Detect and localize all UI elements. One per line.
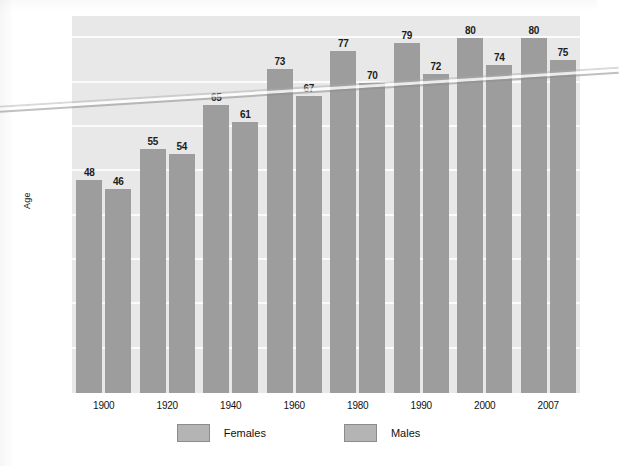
bar-value-label: 48 xyxy=(84,167,95,178)
bar-females-1920[interactable]: 55 xyxy=(140,149,166,393)
x-axis-tick-label-1960: 1960 xyxy=(264,400,324,411)
bar-value-label: 65 xyxy=(211,92,222,103)
x-axis-tick-label-1980: 1980 xyxy=(328,400,388,411)
bar-value-label: 54 xyxy=(176,141,187,152)
bar-group: 8075 xyxy=(521,16,576,393)
plot-area: 48465554656173677770797280748075 xyxy=(72,16,580,393)
bar-males-1990[interactable]: 72 xyxy=(423,74,449,393)
bar-females-1960[interactable]: 73 xyxy=(267,69,293,393)
bar-value-label: 72 xyxy=(430,61,441,72)
bar-males-1980[interactable]: 70 xyxy=(359,83,385,393)
y-axis-title: Age xyxy=(22,192,32,209)
bar-females-1940[interactable]: 65 xyxy=(203,105,229,393)
bar-value-label: 80 xyxy=(465,25,476,36)
x-axis-tick-label-1900: 1900 xyxy=(74,400,134,411)
bars-layer: 48465554656173677770797280748075 xyxy=(72,16,580,393)
bar-males-2000[interactable]: 74 xyxy=(486,65,512,393)
x-axis-tick-label-2007: 2007 xyxy=(518,400,578,411)
x-axis-tick-label-1990: 1990 xyxy=(391,400,451,411)
bar-group: 7367 xyxy=(267,16,322,393)
x-axis-tick-label-1940: 1940 xyxy=(201,400,261,411)
chart-legend: FemalesMales xyxy=(0,424,597,442)
bar-value-label: 77 xyxy=(338,38,349,49)
bar-females-1900[interactable]: 48 xyxy=(76,180,102,393)
x-axis-tick-label-2000: 2000 xyxy=(455,400,515,411)
bar-value-label: 79 xyxy=(401,30,412,41)
legend-item-males[interactable]: Males xyxy=(344,424,420,442)
legend-label: Females xyxy=(224,427,266,439)
bar-value-label: 46 xyxy=(113,176,124,187)
bar-group: 4846 xyxy=(76,16,131,393)
bar-females-1980[interactable]: 77 xyxy=(330,51,356,393)
bar-value-label: 75 xyxy=(557,47,568,58)
bar-value-label: 74 xyxy=(494,52,505,63)
bar-value-label: 70 xyxy=(367,70,378,81)
bar-males-2007[interactable]: 75 xyxy=(550,60,576,393)
bar-males-1920[interactable]: 54 xyxy=(169,154,195,394)
bar-value-label: 73 xyxy=(274,56,285,67)
bar-females-1990[interactable]: 79 xyxy=(394,43,420,393)
bar-value-label: 55 xyxy=(147,136,158,147)
bar-value-label: 67 xyxy=(303,83,314,94)
bar-males-1900[interactable]: 46 xyxy=(105,189,131,393)
bar-females-2000[interactable]: 80 xyxy=(457,38,483,393)
bar-group: 7770 xyxy=(330,16,385,393)
bar-females-2007[interactable]: 80 xyxy=(521,38,547,393)
bar-group: 7972 xyxy=(394,16,449,393)
x-axis-tick-label-1920: 1920 xyxy=(137,400,197,411)
bar-value-label: 80 xyxy=(528,25,539,36)
legend-label: Males xyxy=(391,427,420,439)
legend-swatch-males xyxy=(344,424,377,442)
bar-males-1940[interactable]: 61 xyxy=(232,122,258,393)
bar-value-label: 61 xyxy=(240,109,251,120)
bar-males-1960[interactable]: 67 xyxy=(296,96,322,393)
bar-group: 6561 xyxy=(203,16,258,393)
bar-group: 5554 xyxy=(140,16,195,393)
legend-item-females[interactable]: Females xyxy=(177,424,266,442)
bar-group: 8074 xyxy=(457,16,512,393)
legend-swatch-females xyxy=(177,424,210,442)
